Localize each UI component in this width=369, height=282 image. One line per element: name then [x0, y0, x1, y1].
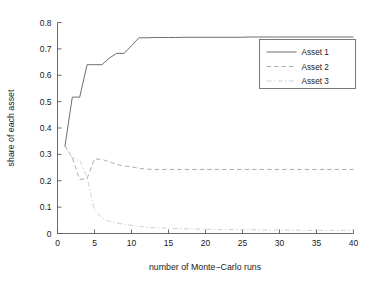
y-tick-label: 0.6: [40, 70, 52, 80]
y-tick-label: 0.4: [40, 123, 52, 133]
legend-label-asset-1: Asset 1: [302, 48, 330, 57]
y-tick-label: 0.7: [40, 44, 52, 54]
y-tick-label: 0.1: [40, 202, 52, 212]
legend-label-asset-2: Asset 2: [302, 63, 330, 72]
x-tick-label: 20: [201, 238, 211, 248]
y-tick-label: 0: [47, 229, 52, 239]
x-axis-ticks: 0510152025303540: [55, 230, 358, 248]
line-chart: 00.10.20.30.40.50.60.70.8 05101520253035…: [0, 0, 369, 282]
x-tick-label: 0: [55, 238, 60, 248]
x-tick-label: 40: [349, 238, 359, 248]
legend-label-asset-3: Asset 3: [302, 77, 330, 86]
y-axis-ticks: 00.10.20.30.40.50.60.70.8: [40, 18, 62, 239]
x-tick-label: 5: [92, 238, 97, 248]
y-tick-label: 0.3: [40, 149, 52, 159]
x-tick-label: 25: [238, 238, 248, 248]
y-tick-label: 0.5: [40, 97, 52, 107]
plot-area: 00.10.20.30.40.50.60.70.8 05101520253035…: [6, 18, 358, 272]
x-tick-label: 30: [275, 238, 285, 248]
chart-figure: 00.10.20.30.40.50.60.70.8 05101520253035…: [0, 0, 369, 282]
x-tick-label: 10: [127, 238, 137, 248]
series-line-asset-2: [65, 145, 354, 179]
y-tick-label: 0.2: [40, 176, 52, 186]
series-line-asset-3: [65, 146, 354, 230]
x-tick-label: 15: [164, 238, 174, 248]
y-axis-title: share of each asset: [6, 89, 16, 166]
y-tick-label: 0.8: [40, 18, 52, 28]
chart-legend: Asset 1Asset 2Asset 3: [260, 40, 356, 89]
x-tick-label: 35: [312, 238, 322, 248]
x-axis-title: number of Monte−Carlo runs: [149, 262, 262, 272]
